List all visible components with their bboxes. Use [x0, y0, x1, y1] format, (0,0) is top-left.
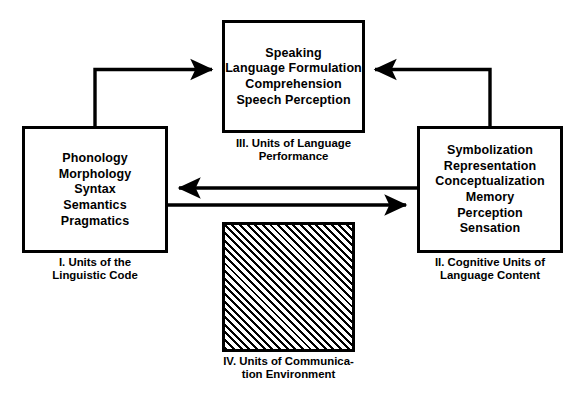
box-2-line-6: Sensation — [460, 221, 521, 237]
box-1-line-3: Syntax — [74, 182, 116, 198]
box-communication-environment — [222, 222, 355, 352]
box-3-line-2: Language Formulation — [225, 61, 362, 77]
box-2-line-2: Representation — [444, 158, 536, 174]
box-1-line-2: Morphology — [59, 166, 132, 182]
caption-communication-environment: IV. Units of Communica- tion Environment — [192, 355, 385, 382]
box-cognitive-units: Symbolization Representation Conceptuali… — [417, 126, 563, 253]
caption-cognitive-units: II. Cognitive Units of Language Content — [417, 256, 563, 283]
box-3-line-4: Speech Perception — [236, 92, 350, 108]
arrow-content-to-performance — [375, 70, 490, 127]
box-1-line-4: Semantics — [63, 197, 126, 213]
arrow-code-to-performance — [95, 70, 212, 127]
box-1-line-1: Phonology — [62, 150, 127, 166]
caption-linguistic-code: I. Units of the Linguistic Code — [22, 256, 168, 283]
figure-canvas: Speaking Language Formulation Comprehens… — [0, 0, 588, 403]
box-2-line-3: Conceptualization — [435, 174, 544, 190]
box-1-line-5: Pragmatics — [61, 213, 129, 229]
box-2-line-1: Symbolization — [447, 142, 533, 158]
box-2-line-4: Memory — [466, 190, 515, 206]
box-linguistic-code: Phonology Morphology Syntax Semantics Pr… — [22, 126, 168, 253]
box-3-line-3: Comprehension — [245, 77, 341, 93]
box-3-line-1: Speaking — [265, 45, 321, 61]
box-2-line-5: Perception — [457, 205, 523, 221]
box-language-performance: Speaking Language Formulation Comprehens… — [222, 20, 365, 133]
caption-language-performance: III. Units of Language Performance — [208, 137, 379, 164]
